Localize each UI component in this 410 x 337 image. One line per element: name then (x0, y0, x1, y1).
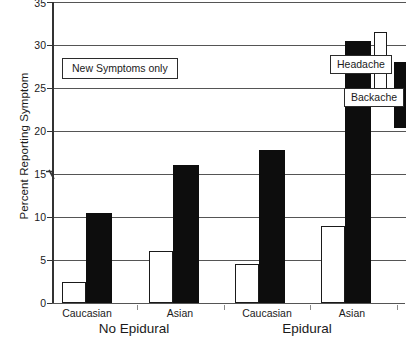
x-tick-label-caucasian-epidural: Caucasian (242, 307, 292, 319)
x-group-label-epidural: Epidural (282, 321, 332, 336)
x-axis-separator-3 (310, 305, 311, 310)
y-tick-label-25: 25 (20, 82, 46, 94)
x-axis-baseline (52, 303, 405, 304)
y-axis-tick-labels: 0 5 10 15 20 25 30 35 (20, 0, 46, 337)
y-tick-label-20: 20 (20, 125, 46, 137)
bar-backache-caucasian-epidural (259, 150, 285, 303)
x-group-label-no-epidural: No Epidural (99, 321, 170, 336)
x-axis-separator-4 (397, 305, 398, 310)
bar-headache-caucasian-no-epidural (62, 282, 86, 304)
y-tick-label-5: 5 (20, 254, 46, 266)
annotation-new-symptoms: New Symptoms only (62, 58, 178, 79)
x-axis: Caucasian Asian Caucasian Asian No Epidu… (52, 305, 404, 337)
x-tick-label-asian-epidural: Asian (339, 307, 365, 319)
bar-headache-caucasian-epidural (235, 264, 259, 303)
x-axis-separator-1 (137, 305, 138, 310)
bar-chart: Percent Reporting Symptom 0 5 10 15 20 2… (0, 0, 410, 337)
x-tick-label-asian-no-epidural: Asian (167, 307, 193, 319)
y-tick-label-10: 10 (20, 211, 46, 223)
x-axis-separator-2 (224, 305, 225, 310)
chart-legend: Headache Backache (330, 25, 410, 140)
y-tick-label-30: 30 (20, 39, 46, 51)
bar-backache-caucasian-no-epidural (86, 213, 112, 303)
bar-backache-asian-no-epidural (173, 165, 199, 303)
bar-headache-asian-no-epidural (149, 251, 173, 303)
y-tick-label-35: 35 (20, 0, 46, 9)
y-tick-label-0: 0 (20, 297, 46, 309)
legend-label-headache: Headache (330, 55, 392, 74)
y-tick-label-15: 15 (20, 168, 46, 180)
bar-headache-asian-epidural (321, 226, 345, 303)
legend-label-backache: Backache (344, 88, 404, 107)
x-tick-label-caucasian-no-epidural: Caucasian (62, 307, 112, 319)
